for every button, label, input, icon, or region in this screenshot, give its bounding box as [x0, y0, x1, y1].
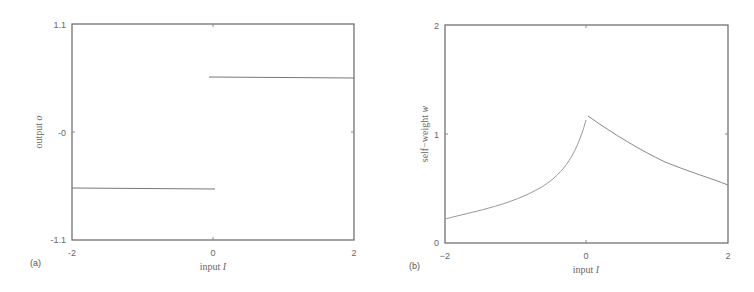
ytick-a-mid: -0 [58, 128, 66, 138]
xtick-a-left: -2 [68, 248, 76, 258]
xtick-b-right: 2 [725, 251, 730, 261]
ytick-b-top: 2 [434, 21, 439, 31]
series-positive-branch [209, 77, 354, 78]
ytick-b-bottom: 0 [434, 238, 439, 248]
xtick-b-mid: 0 [583, 251, 588, 261]
xtick-a-mid: 0 [210, 248, 215, 258]
series-left-branch [445, 120, 586, 219]
series-negative-branch [72, 188, 215, 189]
plot-frame-b [445, 25, 728, 243]
xtick-a-right: 2 [351, 248, 356, 258]
ylabel-a: output o [33, 115, 44, 148]
ytick-a-bottom: -1.1 [50, 235, 66, 245]
plot-frame-a [72, 24, 354, 240]
ytick-b-mid: 1 [434, 130, 439, 140]
series-right-branch [588, 116, 728, 185]
panel-label-a: (a) [30, 258, 41, 268]
xlabel-b: input I [573, 264, 600, 275]
ytick-a-top: 1.1 [53, 20, 66, 30]
xtick-b-left: −2 [440, 251, 450, 261]
chart-a: 1.1 -0 -1.1 -2 0 2 input I output o (a) [30, 20, 357, 272]
xlabel-a: input I [200, 261, 227, 272]
ylabel-b: self−weight w [419, 105, 430, 162]
chart-b: 2 1 0 −2 0 2 input I self−weight w (b) [409, 21, 731, 275]
panel-label-b: (b) [409, 261, 420, 271]
figure: 1.1 -0 -1.1 -2 0 2 input I output o (a) … [0, 0, 754, 292]
